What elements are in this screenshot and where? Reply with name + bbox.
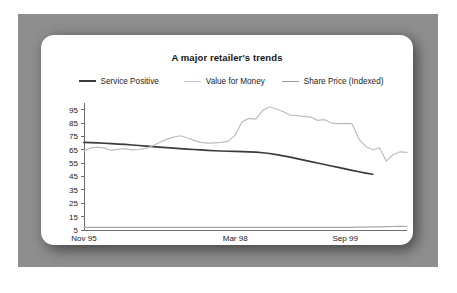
series-line [84,226,407,227]
y-tick-label: 75 [69,132,78,141]
x-tick-label: Mar 98 [223,234,248,243]
chart-card: A major retailer's trends Service Positi… [41,35,413,245]
y-axis-ticks: 9585756555453525155 [69,106,84,235]
x-tick-label: Nov 95 [71,234,97,243]
plot-area: 9585756555453525155 Nov 95Mar 98Sep 99 [41,35,413,245]
y-tick-label: 55 [69,159,78,168]
y-tick-label: 85 [69,119,78,128]
y-tick-label: 25 [69,199,78,208]
chart-plot-svg: 9585756555453525155 Nov 95Mar 98Sep 99 [41,35,413,245]
y-tick-label: 15 [69,213,78,222]
data-series-group [84,107,407,227]
series-line [84,142,373,174]
x-axis-ticks: Nov 95Mar 98Sep 99 [71,234,358,243]
x-tick-label: Sep 99 [332,234,358,243]
figure-root: A major retailer's trends Service Positi… [0,0,457,293]
y-tick-label: 95 [69,106,78,115]
y-tick-label: 35 [69,186,78,195]
y-tick-label: 65 [69,146,78,155]
series-line [84,107,407,161]
y-tick-label: 45 [69,172,78,181]
